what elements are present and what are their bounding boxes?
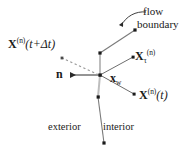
label-boundary: boundary: [137, 19, 179, 30]
label-x-tau: Xτ(n): [135, 50, 155, 62]
xw-junction-dot: [98, 73, 101, 76]
label-flow: flow: [143, 6, 163, 17]
label-xw-subscript: w: [116, 78, 121, 87]
boundary-segment-upper: [100, 30, 135, 53]
label-xw-wall-point: xw: [110, 72, 121, 84]
boundary-segment-below-hub: [98, 75, 100, 97]
x-t-point-dot: [133, 93, 136, 96]
boundary-vertex-dot: [98, 51, 101, 54]
label-x-next-timestep: X(n)(t+Δt): [8, 38, 55, 50]
label-x-tau-base: X: [135, 49, 144, 63]
label-x-t-argument: (t): [156, 88, 167, 102]
label-normal-vector: n: [56, 68, 63, 80]
particle-trajectory-trail: [62, 58, 97, 74]
label-interior-region: interior: [103, 122, 134, 133]
label-x-tau-subscript: τ: [144, 56, 147, 65]
label-x-next-base: X: [8, 37, 17, 51]
boundary-segment-lower: [98, 97, 104, 143]
label-x-t-base: X: [139, 88, 148, 102]
boundary-vertex-dot: [97, 95, 100, 98]
boundary-vertex-dot: [102, 141, 105, 144]
label-x-current-timestep: X(n)(t): [139, 89, 168, 101]
label-x-tau-superscript: (n): [147, 48, 156, 57]
trajectory-start-dot: [61, 57, 64, 60]
label-exterior-region: exterior: [48, 122, 81, 133]
flow-boundary-diagram: X(n)(t+Δt) flow boundary Xτ(n) X(n)(t) n…: [0, 0, 194, 149]
label-x-next-argument: (t+Δt): [25, 37, 55, 51]
